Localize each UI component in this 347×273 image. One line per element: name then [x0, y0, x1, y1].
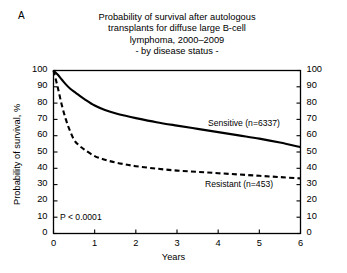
y-tick-label-left-0: 0 [24, 227, 48, 237]
y-tick-label-left-70: 70 [24, 113, 48, 123]
x-tick-label-3: 3 [167, 238, 187, 248]
y-tick-label-right-100: 100 [307, 64, 331, 74]
y-tick-label-left-100: 100 [24, 64, 48, 74]
y-tick-label-left-40: 40 [24, 162, 48, 172]
plot-area [0, 0, 347, 273]
pvalue-annotation: P < 0.0001 [60, 212, 102, 222]
y-tick-label-right-10: 10 [307, 211, 331, 221]
x-tick-label-1: 1 [85, 238, 105, 248]
y-tick-label-right-30: 30 [307, 178, 331, 188]
y-tick-label-left-50: 50 [24, 146, 48, 156]
y-tick-label-right-60: 60 [307, 129, 331, 139]
y-tick-label-right-70: 70 [307, 113, 331, 123]
series-line-sensitive [54, 71, 301, 148]
x-tick-label-6: 6 [291, 238, 311, 248]
y-axis-title-left: Probability of survival, % [12, 104, 22, 205]
y-tick-label-left-10: 10 [24, 211, 48, 221]
x-tick-label-5: 5 [249, 238, 269, 248]
y-tick-label-right-80: 80 [307, 97, 331, 107]
y-tick-label-left-90: 90 [24, 80, 48, 90]
x-axis-title: Years [0, 252, 347, 262]
axis-ticks [54, 71, 301, 234]
x-tick-label-0: 0 [44, 238, 64, 248]
x-tick-label-4: 4 [208, 238, 228, 248]
x-tick-label-2: 2 [126, 238, 146, 248]
plot-frame [54, 71, 301, 234]
y-tick-label-right-0: 0 [307, 227, 331, 237]
y-tick-label-left-30: 30 [24, 178, 48, 188]
y-tick-label-left-60: 60 [24, 129, 48, 139]
series-label-resistant: Resistant (n=453) [205, 179, 273, 189]
y-tick-label-left-20: 20 [24, 194, 48, 204]
y-tick-label-right-90: 90 [307, 80, 331, 90]
series-label-sensitive: Sensitive (n=6337) [208, 118, 280, 128]
y-tick-label-left-80: 80 [24, 97, 48, 107]
y-tick-label-right-20: 20 [307, 194, 331, 204]
y-tick-label-right-40: 40 [307, 162, 331, 172]
y-tick-label-right-50: 50 [307, 146, 331, 156]
survival-chart-figure: A Probability of survival after autologo… [0, 0, 347, 273]
